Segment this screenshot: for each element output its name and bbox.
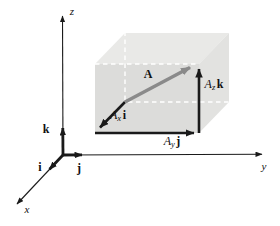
component-ay-unit: j <box>176 134 180 148</box>
x-axis-label: x <box>25 204 30 215</box>
unit-vector-k-label: k <box>43 123 50 135</box>
component-az-label: Azk <box>205 78 224 92</box>
component-az-unit: k <box>217 77 224 91</box>
y-axis <box>63 154 262 155</box>
diagram-canvas <box>0 0 280 226</box>
component-az-subscript: z <box>212 82 215 92</box>
unit-vector-i-label: i <box>38 161 41 173</box>
component-ay-subscript: y <box>171 139 175 149</box>
component-ay-label: Ayj <box>164 135 181 149</box>
component-ax-subscript: x <box>117 113 121 123</box>
component-ax-label: Axi <box>110 109 126 123</box>
component-ax-unit: i <box>123 108 126 122</box>
y-axis-label: y <box>262 161 267 172</box>
unit-vector-i-arrow <box>50 155 64 169</box>
unit-vector-j-label: j <box>77 162 81 174</box>
vector-components-diagram: z y x k i j A Axi Ayj Azk <box>0 0 280 226</box>
vector-a-label: A <box>144 68 153 80</box>
z-axis-label: z <box>70 6 74 17</box>
